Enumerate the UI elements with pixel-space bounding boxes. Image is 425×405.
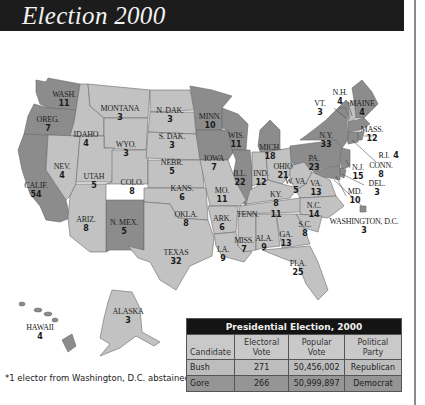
svg-text:MD.: MD. — [348, 187, 362, 196]
svg-text:N. MEX.: N. MEX. — [110, 218, 138, 227]
svg-text:W. VA.: W. VA. — [285, 177, 307, 186]
table-row: Bush 271 50,456,002 Republican — [187, 360, 402, 376]
svg-text:TEXAS: TEXAS — [164, 248, 189, 257]
svg-text:MAINE: MAINE — [349, 99, 375, 108]
svg-text:7: 7 — [241, 245, 247, 254]
cell-popular: 50,999,897 — [289, 376, 345, 392]
svg-text:MASS.: MASS. — [361, 125, 384, 134]
svg-text:N.Y.: N.Y. — [319, 131, 333, 140]
svg-text:HAWAII: HAWAII — [26, 323, 54, 332]
svg-text:VT.: VT. — [314, 99, 326, 108]
svg-text:ARK.: ARK. — [213, 214, 231, 223]
svg-text:11: 11 — [230, 140, 242, 149]
table-row: Gore 266 50,999,897 Democrat — [187, 376, 402, 392]
results-table: Presidential Election, 2000 Candidate El… — [186, 318, 402, 392]
svg-text:IOWA: IOWA — [204, 154, 225, 163]
svg-text:9: 9 — [220, 254, 226, 263]
svg-text:12: 12 — [366, 134, 377, 143]
state-hawaii-big — [62, 334, 76, 352]
svg-text:KANS.: KANS. — [171, 184, 194, 193]
cell-candidate: Gore — [187, 376, 235, 392]
svg-text:4: 4 — [37, 332, 43, 341]
svg-text:MISS.: MISS. — [234, 236, 254, 245]
svg-text:13: 13 — [310, 188, 321, 197]
svg-text:ALASKA: ALASKA — [112, 307, 144, 316]
svg-text:KY.: KY. — [270, 190, 282, 199]
svg-text:8: 8 — [83, 224, 89, 233]
svg-text:R.I.: R.I. — [378, 151, 389, 160]
cell-party: Republican — [344, 360, 401, 376]
svg-text:8: 8 — [378, 170, 384, 179]
table-caption: Presidential Election, 2000 — [187, 319, 402, 335]
svg-text:5: 5 — [91, 181, 97, 190]
svg-text:PA.: PA. — [309, 154, 320, 163]
svg-text:MONTANA: MONTANA — [101, 104, 140, 113]
cell-electoral: 266 — [234, 376, 288, 392]
svg-text:5: 5 — [293, 186, 299, 195]
svg-text:CALIF.: CALIF. — [24, 181, 47, 190]
svg-text:15: 15 — [352, 172, 364, 181]
svg-text:25: 25 — [292, 268, 304, 277]
svg-text:NEBR.: NEBR. — [161, 158, 184, 167]
svg-text:ARIZ.: ARIZ. — [76, 215, 96, 224]
svg-text:MINN.: MINN. — [199, 112, 222, 121]
svg-text:DEL.: DEL. — [369, 179, 386, 188]
svg-text:MO.: MO. — [215, 186, 229, 195]
svg-text:TENN.: TENN. — [237, 210, 260, 219]
hawaii-islands — [19, 302, 58, 322]
svg-text:54: 54 — [30, 190, 42, 199]
state-conn — [348, 132, 358, 144]
svg-text:12: 12 — [255, 178, 266, 187]
svg-text:7: 7 — [211, 163, 217, 172]
svg-text:IDAHO: IDAHO — [74, 130, 99, 139]
svg-text:3: 3 — [374, 188, 380, 197]
svg-text:11: 11 — [216, 195, 228, 204]
svg-text:8: 8 — [183, 219, 189, 228]
svg-text:8: 8 — [129, 187, 135, 196]
svg-text:CONN.: CONN. — [369, 161, 393, 170]
header-electoral: Electoral Vote — [234, 335, 288, 360]
svg-text:6: 6 — [219, 223, 225, 232]
svg-text:3: 3 — [167, 115, 173, 124]
svg-text:10: 10 — [204, 121, 216, 130]
svg-text:N. DAK.: N. DAK. — [156, 106, 184, 115]
svg-text:LA.: LA. — [217, 245, 229, 254]
svg-text:N.C.: N.C. — [307, 201, 322, 210]
state-ala — [256, 214, 280, 250]
svg-text:4: 4 — [393, 151, 399, 160]
svg-text:13: 13 — [280, 239, 291, 248]
cell-candidate: Bush — [187, 360, 235, 376]
svg-text:UTAH: UTAH — [84, 172, 105, 181]
svg-text:WASH.: WASH. — [52, 90, 76, 99]
svg-text:8: 8 — [302, 229, 308, 238]
svg-text:FLA.: FLA. — [290, 259, 307, 268]
svg-text:WASHINGTON, D.C.: WASHINGTON, D.C. — [329, 217, 398, 226]
svg-text:22: 22 — [234, 178, 245, 187]
state-del — [340, 168, 346, 178]
svg-text:5: 5 — [169, 167, 175, 176]
svg-text:COLO.: COLO. — [121, 178, 144, 187]
svg-text:14: 14 — [308, 210, 320, 219]
table-header-row: Candidate Electoral Vote Popular Vote Po… — [187, 335, 402, 360]
svg-text:WIS.: WIS. — [228, 131, 244, 140]
header-popular: Popular Vote — [289, 335, 345, 360]
svg-text:5: 5 — [121, 227, 127, 236]
svg-text:18: 18 — [264, 152, 276, 161]
footnote: *1 elector from Washington, D.C. abstain… — [5, 373, 190, 383]
svg-text:4: 4 — [337, 97, 343, 106]
svg-text:GA.: GA. — [280, 230, 293, 239]
svg-text:3: 3 — [317, 108, 323, 117]
svg-text:3: 3 — [123, 149, 129, 158]
svg-text:S. DAK.: S. DAK. — [159, 132, 186, 141]
svg-text:32: 32 — [170, 257, 181, 266]
svg-text:4: 4 — [59, 171, 65, 180]
svg-text:33: 33 — [320, 140, 331, 149]
state-nj — [340, 148, 350, 170]
svg-text:MICH.: MICH. — [259, 143, 281, 152]
cell-popular: 50,456,002 — [289, 360, 345, 376]
svg-text:3: 3 — [117, 113, 123, 122]
svg-text:S.C.: S.C. — [299, 220, 312, 229]
svg-text:23: 23 — [308, 163, 319, 172]
svg-text:ALA.: ALA. — [255, 234, 273, 243]
svg-text:WYO.: WYO. — [116, 140, 137, 149]
